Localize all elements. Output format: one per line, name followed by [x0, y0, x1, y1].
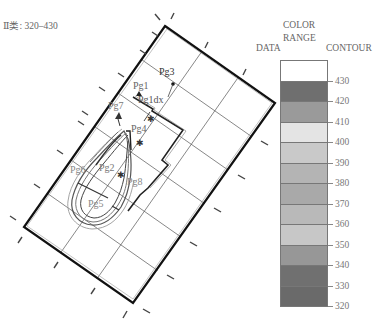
svg-text:✱: ✱	[136, 138, 144, 148]
legend-tick	[328, 245, 333, 246]
legend-tick	[328, 142, 333, 143]
legend-tick	[328, 224, 333, 225]
legend-band	[280, 225, 328, 246]
legend-tick-label: 360	[335, 219, 349, 229]
svg-text:✱: ✱	[117, 170, 125, 180]
legend-tick-label: 350	[335, 240, 349, 250]
legend-tick-label: 340	[335, 260, 349, 270]
legend-header-contour: CONTOUR	[326, 43, 372, 53]
legend-band	[280, 205, 328, 226]
legend-tick	[328, 286, 333, 287]
legend-tick-label: 430	[335, 76, 349, 86]
legend-tick	[328, 183, 333, 184]
border-ticks	[10, 13, 292, 318]
legend-band	[280, 123, 328, 144]
color-legend: 430420410400390380370360350340330320	[280, 60, 328, 307]
legend-tick-label: 420	[335, 96, 349, 106]
legend-tick-label: 400	[335, 137, 349, 147]
well-label-pg1dx: Pg1dx	[138, 94, 164, 105]
legend-band	[280, 287, 328, 308]
legend-header-color: COLOR	[283, 20, 315, 30]
legend-header-range: RANGE	[283, 33, 316, 43]
legend-tick	[328, 163, 333, 164]
well-label-pg1: Pg1	[133, 80, 149, 91]
legend-band	[280, 266, 328, 287]
well-label-pg8: Pg8	[127, 176, 143, 187]
legend-header-data: DATA	[256, 43, 281, 53]
well-label-pg5: Pg5	[88, 198, 104, 209]
legend-tick	[328, 265, 333, 266]
legend-tick	[328, 204, 333, 205]
map-border	[24, 26, 275, 303]
well-label-pg6: Pg6	[70, 164, 86, 175]
legend-tick-label: 320	[335, 301, 349, 311]
legend-tick-label: 410	[335, 117, 349, 127]
legend-band	[280, 82, 328, 103]
legend-tick	[328, 101, 333, 102]
legend-band	[280, 164, 328, 185]
legend-band	[280, 102, 328, 123]
legend-band	[280, 246, 328, 267]
legend-tick-label: 390	[335, 158, 349, 168]
svg-text:✱: ✱	[147, 114, 155, 124]
legend-tick	[328, 306, 333, 307]
legend-tick	[328, 122, 333, 123]
well-label-pg3: Pg3	[159, 66, 175, 77]
legend-tick-label: 380	[335, 178, 349, 188]
legend-band	[280, 184, 328, 205]
legend-tick-label: 370	[335, 199, 349, 209]
legend-tick	[328, 81, 333, 82]
block-boundary	[128, 97, 183, 211]
well-label-pg2: Pg2	[99, 162, 115, 173]
legend-band	[280, 60, 328, 82]
legend-band	[280, 143, 328, 164]
well-label-pg4: Pg4	[131, 123, 147, 134]
legend-tick-label: 330	[335, 281, 349, 291]
well-label-pg7: Pg7	[108, 100, 124, 111]
